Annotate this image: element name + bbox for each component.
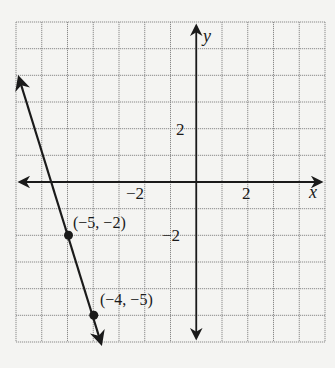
point-label-neg4-neg5: (−4, −5)	[100, 291, 153, 309]
coordinate-graph: y x −2 2 2 −2 (−5, −2) (−4, −5)	[0, 0, 335, 368]
point-neg5-neg2	[64, 231, 73, 240]
point-label-neg5-neg2: (−5, −2)	[73, 214, 126, 232]
tick-label-y-2: 2	[176, 120, 185, 139]
point-neg4-neg5	[89, 311, 98, 320]
graphed-line	[19, 78, 101, 343]
tick-label-x-2: 2	[242, 184, 251, 203]
y-axis-label: y	[201, 26, 211, 46]
x-axis-label: x	[308, 182, 317, 202]
tick-label-x-neg2: −2	[126, 184, 144, 203]
tick-label-y-neg2: −2	[162, 226, 180, 245]
